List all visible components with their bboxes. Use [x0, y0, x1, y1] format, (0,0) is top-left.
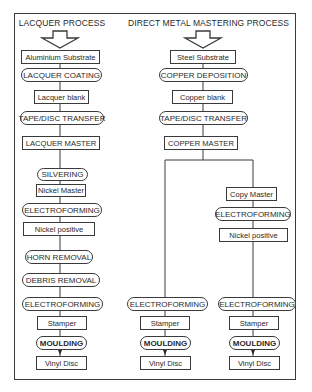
stamper-box: Stamper [37, 316, 87, 330]
arrowhead-icon [163, 350, 167, 355]
electroforming-step: ELECTROFORMING [215, 207, 291, 221]
copper-blank-box: Copper blank [172, 90, 233, 104]
nickel-positive-box: Nickel positive [219, 228, 288, 242]
silvering-step: SILVERING [37, 168, 88, 181]
start-arrow-icon [42, 31, 78, 48]
stamper-box: Stamper [140, 316, 190, 330]
moulding-step: MOULDING [36, 336, 87, 350]
lacquer-process-title: LACQUER PROCESS [18, 18, 106, 28]
direct-metal-mastering-title: DIRECT METAL MASTERING PROCESS [128, 18, 284, 28]
copper-deposition-step: COPPER DEPOSITION [159, 68, 248, 82]
electroforming-step: ELECTROFORMING [22, 297, 103, 311]
steel-substrate-box: Steel Substrate [170, 50, 236, 64]
electroforming-step: ELECTROFORMING [22, 203, 102, 217]
lacquer-coating-step: LACQUER COATING [21, 68, 102, 82]
start-arrow-icon [185, 31, 221, 48]
nickel-master-box: Nickel Master [36, 184, 86, 197]
copy-master-box: Copy Master [226, 187, 277, 201]
tape-disc-transfer-step: TAPE/DISC TRANSFER [20, 111, 104, 125]
electroforming-step: ELECTROFORMING [127, 297, 208, 311]
moulding-step: MOULDING [229, 336, 280, 350]
aluminium-substrate-box: Aluminium Substrate [21, 50, 100, 64]
stamper-box: Stamper [229, 316, 279, 330]
copper-master-box: COPPER MASTER [164, 136, 238, 150]
vinyl-disc-box: Vinyl Disc [229, 356, 280, 370]
vinyl-disc-box: Vinyl Disc [36, 356, 87, 370]
tape-disc-transfer-step: TAPE/DISC TRANSFER [159, 111, 248, 125]
electroforming-step: ELECTROFORMING [218, 297, 296, 311]
arrowhead-icon [251, 350, 255, 355]
debris-removal-step: DEBRIS REMOVAL [22, 273, 100, 287]
lacquer-blank-box: Lacquer blank [34, 90, 89, 104]
nickel-positive-box: Nickel positive [23, 222, 95, 236]
horn-removal-step: HORN REMOVAL [25, 250, 93, 264]
vinyl-disc-box: Vinyl Disc [140, 356, 191, 370]
arrowhead-icon [58, 350, 62, 355]
lacquer-master-box: LACQUER MASTER [22, 136, 100, 150]
moulding-step: MOULDING [140, 336, 191, 350]
